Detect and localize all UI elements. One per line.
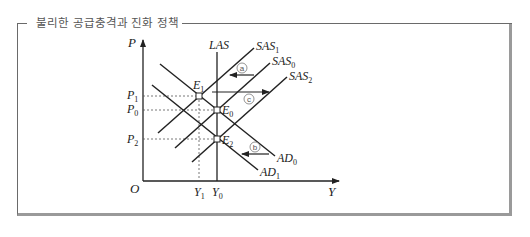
- svg-text:b: b: [253, 143, 258, 152]
- y0-label: Y0: [212, 185, 223, 201]
- shift-label-a: a: [237, 63, 247, 73]
- svg-text:a: a: [240, 64, 245, 73]
- las-label: LAS: [208, 38, 229, 52]
- p2-label: P2: [126, 132, 138, 148]
- p0-label: P0: [126, 102, 138, 118]
- origin-label: O: [130, 181, 140, 196]
- e2-label: E2: [221, 133, 233, 149]
- guide-lines: [143, 96, 217, 181]
- ad1-label: AD1: [259, 165, 280, 181]
- sas2-label: SAS2: [289, 69, 312, 85]
- sas1-label: SAS1: [256, 39, 279, 55]
- shift-label-c: c: [244, 94, 254, 104]
- ad0-label: AD0: [276, 151, 297, 167]
- point-e0: [214, 107, 220, 113]
- sas0-label: SAS0: [272, 54, 295, 70]
- y1-label: Y1: [194, 185, 205, 201]
- x-axis-label: Y: [328, 184, 337, 199]
- shift-label-b: b: [250, 142, 260, 152]
- y-axis-label: P: [127, 35, 136, 50]
- e1-label: E1: [192, 78, 204, 94]
- svg-text:c: c: [247, 95, 251, 104]
- point-e2: [214, 136, 220, 142]
- ad1-curve: [152, 85, 258, 170]
- axes: [143, 40, 339, 181]
- e0-label: E0: [221, 103, 233, 119]
- as-ad-diagram: a c b P Y O LAS SAS1 SAS0 SAS2 AD0 AD1 E…: [0, 0, 530, 237]
